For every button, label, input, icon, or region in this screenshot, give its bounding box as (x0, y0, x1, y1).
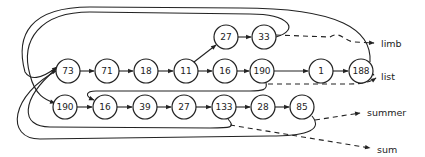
node-28: 28 (251, 95, 275, 119)
node-33: 33 (252, 25, 276, 49)
node-1: 1 (309, 59, 333, 83)
svg-text:18: 18 (140, 66, 152, 76)
node-71: 71 (95, 59, 119, 83)
node-18: 18 (134, 59, 158, 83)
svg-text:27: 27 (178, 102, 189, 112)
svg-text:27: 27 (220, 32, 231, 42)
svg-text:190: 190 (56, 102, 73, 112)
node-27-bottom: 27 (172, 95, 196, 119)
node-188: 188 (349, 59, 373, 83)
label-summer: summer (367, 107, 406, 118)
svg-text:73: 73 (62, 66, 73, 76)
node-85: 85 (290, 95, 314, 119)
linked-list-diagram: 73 71 18 11 16 190 1 188 27 33 190 16 39… (0, 0, 425, 157)
svg-text:28: 28 (257, 102, 269, 112)
svg-text:39: 39 (139, 102, 151, 112)
node-16-top: 16 (213, 59, 237, 83)
node-39: 39 (133, 95, 157, 119)
label-limb: limb (381, 38, 402, 49)
svg-text:71: 71 (101, 66, 112, 76)
node-11: 11 (174, 59, 198, 83)
node-73: 73 (56, 59, 80, 83)
label-sum: sum (377, 144, 397, 155)
variable-labels: limb list summer sum (367, 38, 406, 155)
svg-text:16: 16 (219, 66, 231, 76)
node-27-top: 27 (214, 25, 238, 49)
svg-text:188: 188 (352, 66, 369, 76)
node-190-bottom: 190 (53, 95, 77, 119)
nodes: 73 71 18 11 16 190 1 188 27 33 190 16 39… (53, 25, 373, 119)
node-190-top: 190 (250, 59, 274, 83)
label-list: list (381, 71, 395, 82)
svg-text:33: 33 (258, 32, 269, 42)
svg-text:85: 85 (296, 102, 307, 112)
svg-text:1: 1 (318, 66, 324, 76)
node-16-bottom: 16 (93, 95, 117, 119)
svg-text:11: 11 (180, 66, 191, 76)
svg-text:190: 190 (253, 66, 270, 76)
svg-text:16: 16 (99, 102, 111, 112)
svg-text:133: 133 (215, 102, 232, 112)
node-133: 133 (212, 95, 236, 119)
